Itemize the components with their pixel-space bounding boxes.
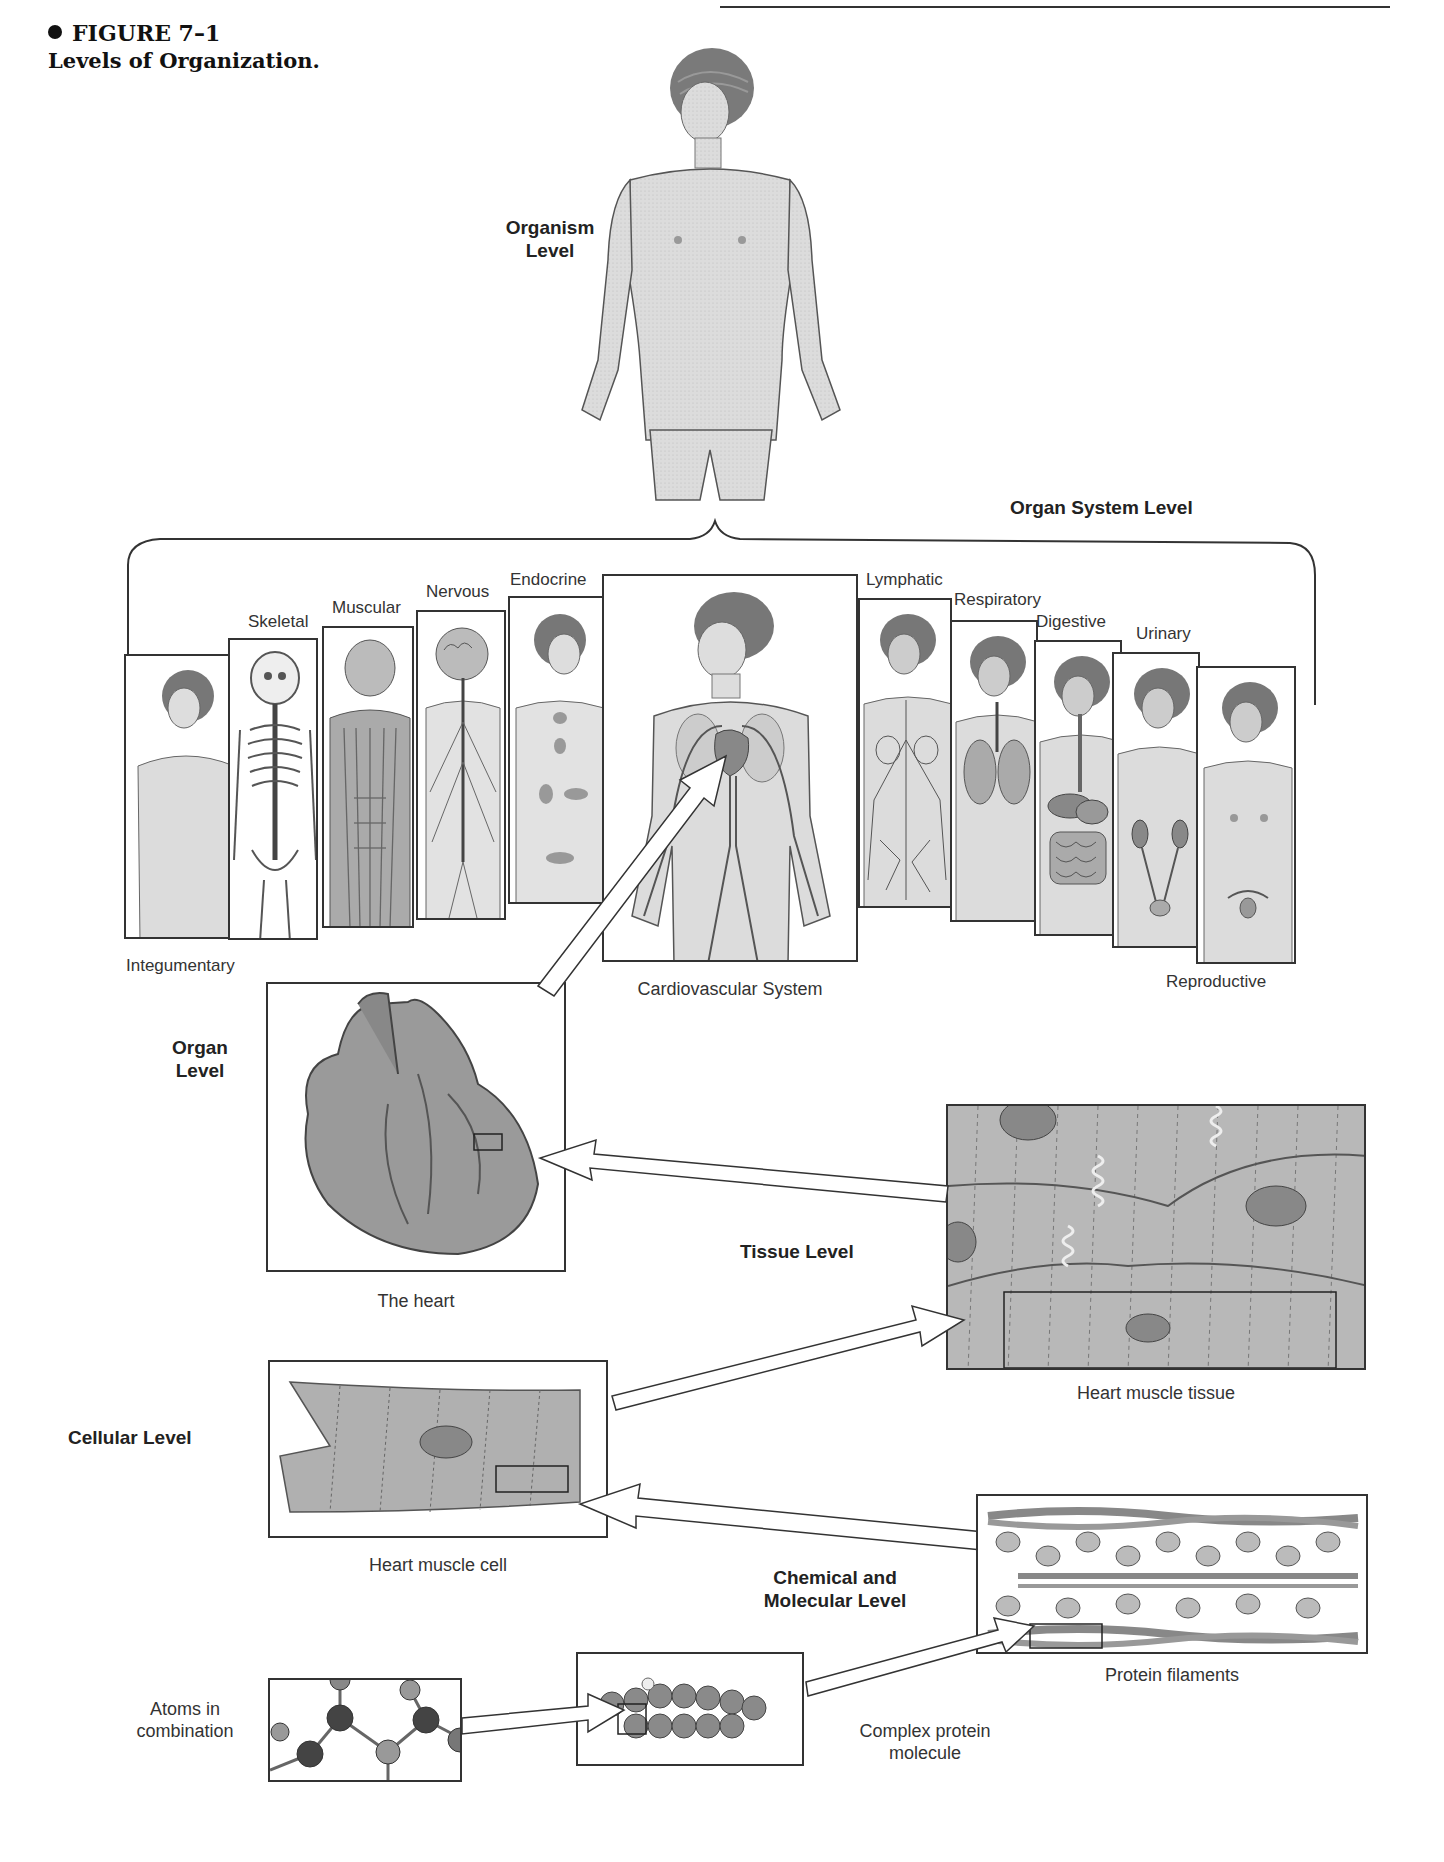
cellular-level-label: Cellular Level: [68, 1426, 248, 1449]
muscle-tissue-icon: [948, 1106, 1366, 1370]
caption-atoms: Atoms in combination: [110, 1698, 260, 1742]
respiratory-figure-icon: [952, 622, 1038, 922]
label-urinary: Urinary: [1136, 624, 1191, 644]
lymphatic-figure-icon: [860, 600, 952, 908]
panel-atoms: [268, 1678, 462, 1782]
label-muscular: Muscular: [332, 598, 401, 618]
tissue-level-label: Tissue Level: [740, 1240, 910, 1263]
heart-icon: [268, 984, 566, 1272]
panel-cell: [268, 1360, 608, 1538]
digestive-figure-icon: [1036, 642, 1122, 936]
caption-protein-line2: molecule: [820, 1742, 1030, 1764]
panel-urinary: [1112, 652, 1200, 948]
arrow-tissue-to-heart: [520, 1130, 960, 1220]
arrow-filaments-to-cell: [560, 1470, 990, 1560]
arrow-atoms-to-protein: [460, 1690, 630, 1750]
bullet-icon: [48, 25, 62, 39]
label-reproductive: Reproductive: [1166, 972, 1266, 992]
label-integumentary: Integumentary: [126, 956, 235, 976]
organ-level-label: Organ Level: [150, 1036, 250, 1082]
muscle-figure-icon: [324, 628, 414, 928]
organism-figure: [560, 30, 880, 530]
label-respiratory: Respiratory: [954, 590, 1041, 610]
label-skeletal: Skeletal: [248, 612, 308, 632]
label-endocrine: Endocrine: [510, 570, 587, 590]
figure-number-text: FIGURE 7–1: [72, 20, 220, 46]
figure-caption: Levels of Organization.: [48, 48, 320, 73]
nervous-system-icon: [418, 612, 506, 920]
organ-label-line1: Organ: [150, 1036, 250, 1059]
panel-lymphatic: [858, 598, 952, 908]
caption-cell: Heart muscle cell: [268, 1554, 608, 1576]
urinary-figure-icon: [1114, 654, 1200, 948]
skeleton-icon: [230, 640, 318, 940]
reproductive-figure-icon: [1198, 668, 1296, 964]
panel-nervous: [416, 610, 506, 920]
panel-integumentary: [124, 654, 234, 939]
caption-atoms-line2: combination: [110, 1720, 260, 1742]
figure-number: FIGURE 7–1: [48, 20, 220, 46]
label-lymphatic: Lymphatic: [866, 570, 943, 590]
top-rule: [720, 6, 1390, 8]
panel-digestive: [1034, 640, 1122, 936]
arrow-cell-to-tissue: [600, 1300, 970, 1430]
label-nervous: Nervous: [426, 582, 489, 602]
caption-protein: Complex protein molecule: [820, 1720, 1030, 1764]
panel-skeletal: [228, 638, 318, 940]
integumentary-figure-icon: [126, 656, 234, 939]
panel-reproductive: [1196, 666, 1296, 964]
panel-tissue: [946, 1104, 1366, 1370]
panel-respiratory: [950, 620, 1038, 922]
label-digestive: Digestive: [1036, 612, 1106, 632]
caption-protein-line1: Complex protein: [820, 1720, 1030, 1742]
arrow-heart-to-cardiovascular: [520, 740, 740, 1000]
panel-muscular: [322, 626, 414, 928]
caption-tissue: Heart muscle tissue: [946, 1382, 1366, 1404]
caption-atoms-line1: Atoms in: [110, 1698, 260, 1720]
panel-heart: [266, 982, 566, 1272]
chemical-label-line1: Chemical and: [740, 1566, 930, 1589]
arrow-protein-to-filaments: [800, 1600, 1040, 1710]
organ-label-line2: Level: [150, 1059, 250, 1082]
muscle-cell-icon: [270, 1362, 608, 1538]
atoms-molecule-icon: [270, 1680, 462, 1782]
caption-heart: The heart: [266, 1290, 566, 1312]
